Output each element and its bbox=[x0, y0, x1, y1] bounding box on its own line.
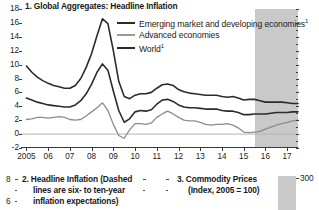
y-tick-8 bbox=[19, 79, 22, 80]
x-tick-label-14: 14 bbox=[217, 152, 226, 161]
y-tick-right-7 bbox=[296, 85, 298, 86]
y-tick-0 bbox=[19, 134, 22, 135]
y-tick-right-0 bbox=[296, 134, 299, 135]
panel-3-right-tick bbox=[296, 178, 299, 179]
panel-2-tick-mid bbox=[15, 190, 17, 191]
x-tick-label-16: 16 bbox=[261, 152, 270, 161]
y-tick-label-14: 14 bbox=[10, 33, 19, 41]
x-tick-label-13: 13 bbox=[196, 152, 205, 161]
y-tick-right-13 bbox=[296, 44, 298, 45]
x-tick-label-06: 06 bbox=[44, 152, 53, 161]
panel-3-tick-1 bbox=[166, 179, 169, 180]
panel-2-title-line1: 2. Headline Inflation (Dashed bbox=[22, 174, 132, 185]
x-tick-label-11: 11 bbox=[153, 152, 162, 161]
legend-item-world: World1 bbox=[117, 42, 308, 53]
legend-item-advanced: Advanced economies bbox=[117, 30, 308, 41]
y-tick-2 bbox=[19, 120, 22, 121]
legend-swatch-emerging bbox=[117, 22, 135, 24]
panel-3-tick-2 bbox=[166, 190, 168, 191]
x-tick-label-08: 08 bbox=[87, 152, 96, 161]
y-tick-right-18 bbox=[296, 9, 299, 10]
y-tick-right--1 bbox=[296, 141, 298, 142]
x-tick-06 bbox=[48, 148, 49, 151]
panel-2-tick-6 bbox=[15, 201, 17, 202]
x-tick-11 bbox=[157, 148, 158, 151]
x-tick-17 bbox=[287, 148, 288, 151]
y-tick-right-8 bbox=[296, 79, 299, 80]
x-tick-label-15: 15 bbox=[239, 152, 248, 161]
x-axis-line bbox=[21, 147, 298, 148]
x-tick-16 bbox=[265, 148, 266, 151]
y-tick-right-14 bbox=[296, 37, 299, 38]
legend-label-world: World1 bbox=[139, 42, 164, 54]
panel-3-title-line2: (Index, 2005 = 100) bbox=[188, 185, 259, 196]
y-tick-right-15 bbox=[296, 30, 298, 31]
x-tick-label-09: 09 bbox=[109, 152, 118, 161]
legend-item-emerging: Emerging market and developing economies… bbox=[117, 17, 308, 28]
x-tick-08 bbox=[92, 148, 93, 151]
y-tick-label-16: 16 bbox=[10, 19, 19, 27]
x-tick-label-07: 07 bbox=[65, 152, 74, 161]
x-tick-label-17: 17 bbox=[283, 152, 292, 161]
panel-3-forecast-shading bbox=[278, 176, 296, 210]
y-tick-label-10: 10 bbox=[10, 61, 19, 69]
y-tick-16 bbox=[19, 23, 22, 24]
x-tick-14 bbox=[222, 148, 223, 151]
y-tick-right-2 bbox=[296, 120, 299, 121]
x-tick-13 bbox=[200, 148, 201, 151]
y-tick-4 bbox=[19, 106, 22, 107]
y-tick-label--2: -2 bbox=[12, 144, 19, 152]
y-tick-12 bbox=[19, 51, 22, 52]
x-tick-07 bbox=[70, 148, 71, 151]
panel-global-aggregates: 1. Global Aggregates: Headline Inflation… bbox=[0, 0, 319, 168]
y-tick--2 bbox=[19, 148, 22, 149]
panel-2-ylabel-8: 8 bbox=[6, 176, 11, 184]
y-tick-6 bbox=[19, 92, 22, 93]
y-tick-right-17 bbox=[296, 16, 298, 17]
x-tick-10 bbox=[135, 148, 136, 151]
panel-2-ylabel-6: 6 bbox=[6, 198, 11, 206]
legend: Emerging market and developing economies… bbox=[117, 17, 308, 55]
y-tick-right-1 bbox=[296, 127, 298, 128]
y-tick-18 bbox=[19, 9, 22, 10]
y-tick-right--2 bbox=[296, 148, 299, 149]
panel-headline-inflation: 8 6 2. Headline Inflation (Dashed lines … bbox=[0, 174, 160, 210]
x-tick-2005 bbox=[26, 148, 27, 151]
x-tick-label-10: 10 bbox=[130, 152, 139, 161]
legend-swatch-advanced bbox=[117, 34, 135, 36]
panel-3-title-line1: 3. Commodity Prices bbox=[177, 174, 257, 185]
y-tick-right-11 bbox=[296, 58, 298, 59]
panel-2-right-tick-1 bbox=[143, 179, 146, 180]
y-tick-14 bbox=[19, 37, 22, 38]
y-tick-right-16 bbox=[296, 23, 299, 24]
legend-swatch-world bbox=[117, 47, 135, 49]
y-tick-right-4 bbox=[296, 106, 299, 107]
panel-3-right-label-300: 300 bbox=[300, 175, 314, 183]
y-tick-right-5 bbox=[296, 99, 298, 100]
y-tick-label-18: 18 bbox=[10, 5, 19, 13]
y-tick-right-10 bbox=[296, 65, 299, 66]
x-tick-label-2005: 2005 bbox=[17, 152, 35, 161]
x-tick-label-12: 12 bbox=[174, 152, 183, 161]
figure-container: 1. Global Aggregates: Headline Inflation… bbox=[0, 0, 319, 210]
y-tick-label-12: 12 bbox=[10, 47, 19, 55]
y-tick-right-12 bbox=[296, 51, 299, 52]
legend-label-advanced: Advanced economies bbox=[139, 31, 219, 40]
y-tick-right-9 bbox=[296, 72, 298, 73]
x-tick-12 bbox=[179, 148, 180, 151]
panel-2-right-tick-2 bbox=[143, 190, 145, 191]
y-tick-right-3 bbox=[296, 113, 298, 114]
y-axis-labels: 181614121086420-2 bbox=[0, 9, 19, 148]
panel-2-title-line2: lines are six- to ten-year bbox=[33, 185, 125, 196]
y-tick-10 bbox=[19, 65, 22, 66]
legend-label-emerging: Emerging market and developing economies… bbox=[139, 17, 308, 29]
footnote-marker-2: 1 bbox=[161, 43, 164, 49]
series-line-advanced-economies bbox=[26, 103, 298, 138]
panel-2-title-line3: inflation expectations) bbox=[33, 196, 118, 207]
y-tick-right-6 bbox=[296, 92, 299, 93]
panel-2-tick-8 bbox=[15, 179, 18, 180]
panel-commodity-prices: 3. Commodity Prices (Index, 2005 = 100) … bbox=[160, 174, 319, 210]
footnote-marker-1: 1 bbox=[305, 18, 308, 24]
x-tick-09 bbox=[113, 148, 114, 151]
x-tick-15 bbox=[244, 148, 245, 151]
